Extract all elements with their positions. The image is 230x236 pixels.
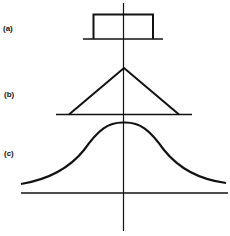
- panel-c-gaussian-curve: [21, 122, 228, 193]
- diagram-canvas: [0, 0, 230, 236]
- pulse-shapes-figure: (a) (b) (c): [0, 0, 230, 236]
